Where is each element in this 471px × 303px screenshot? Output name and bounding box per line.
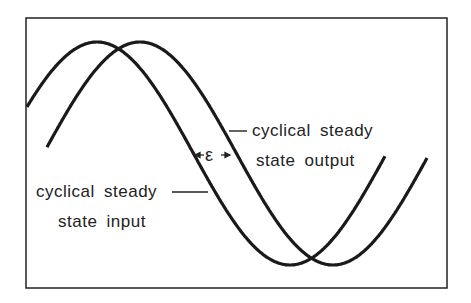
phase-lag-diagram (0, 0, 471, 303)
output-label-line2: state output (256, 152, 355, 169)
output-sine-curve (47, 42, 427, 265)
output-label-line1: cyclical steady (252, 122, 373, 139)
input-label-line1: cyclical steady (36, 183, 157, 200)
input-label-line2: state input (58, 213, 146, 230)
phase-lag-epsilon: ε (205, 146, 214, 164)
